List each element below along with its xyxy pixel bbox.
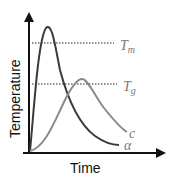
alpha-label: α	[124, 138, 132, 153]
tg-label: Tg	[123, 79, 136, 96]
tm-label: Tm	[120, 38, 135, 55]
temperature-time-diagram: Tm Tg c α Time Temperature	[0, 0, 178, 183]
x-axis-label: Time	[70, 160, 101, 176]
y-axis-label: Temperature	[7, 59, 23, 138]
x-axis-arrow-icon	[156, 148, 166, 158]
alpha-curve	[30, 27, 119, 151]
y-axis-arrow-icon	[24, 12, 34, 22]
c-curve	[30, 79, 127, 151]
